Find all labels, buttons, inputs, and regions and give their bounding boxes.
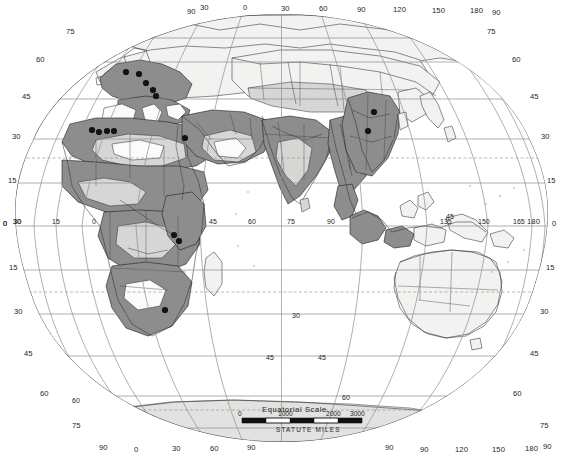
grid-label-right-11: 75 (540, 421, 549, 430)
map-canvas: 9030030609012015018090 90030609090901201… (0, 0, 563, 456)
longitude-labels-top: 9030030609012015018090 (187, 3, 501, 17)
grid-label-left-9: 45 (24, 349, 33, 358)
grid-label-top-6: 120 (393, 5, 406, 14)
scale-units-label: STATUTE MILES (276, 426, 341, 433)
grid-label-top-7: 150 (432, 6, 445, 15)
grid-label-left-0: 75 (66, 27, 75, 36)
grid-label-left-3: 30 (12, 132, 21, 141)
marker-eafrica-2 (176, 238, 182, 244)
marker-europe-5 (153, 93, 159, 99)
grid-label-equator-4: 45 (209, 218, 217, 225)
longitude-labels-bottom: 900306090909012015018090 (99, 442, 552, 454)
grid-label-equator-3: 0 (92, 218, 96, 225)
grid-label-top-2: 0 (243, 3, 247, 12)
grid-label-equator-9: 150 (478, 218, 490, 225)
grid-label-bottom-0: 90 (99, 443, 108, 452)
grid-label-top-0: 90 (187, 7, 196, 16)
grid-label-right-0: 75 (487, 27, 496, 36)
grid-label-right-5: 180 (527, 217, 540, 226)
marker-nafrica-1 (89, 127, 95, 133)
grid-label-bottom-9: 180 (525, 444, 538, 453)
grid-label-right-2: 45 (530, 92, 539, 101)
grid-label-right-4: 15 (547, 176, 556, 185)
grid-label-right-8: 30 (540, 307, 549, 316)
marker-echina-1 (371, 109, 377, 115)
grid-label-top-1: 30 (200, 3, 209, 12)
grid-label-left-11: 75 (72, 421, 81, 430)
scale-tick-2000: 2000 (326, 410, 341, 417)
map-body (0, 0, 563, 456)
grid-label-top-8: 180 (470, 6, 483, 15)
grid-label-bottom-7: 120 (455, 445, 468, 454)
grid-label-right-3: 30 (541, 132, 550, 141)
marker-nafrica-2 (96, 129, 102, 135)
marker-echina-2 (365, 128, 371, 134)
marker-levant (182, 135, 188, 141)
marker-eafrica-1 (171, 232, 177, 238)
grid-label-equator-1: 30 (13, 218, 21, 225)
grid-label-bottom-2: 30 (172, 444, 181, 453)
grid-label-left-1: 60 (36, 55, 45, 64)
scale-tick-3000: 3000 (350, 410, 365, 417)
grid-label-equator-7: 90 (327, 218, 335, 225)
marker-nafrica-4 (111, 128, 117, 134)
grid-label-interior-2: 30 (292, 312, 300, 319)
grid-label-equator-5: 60 (248, 218, 256, 225)
scale-tick-0: 0 (238, 410, 242, 417)
grid-label-interior-3: 45 (446, 213, 454, 220)
grid-label-top-4: 60 (319, 4, 328, 13)
grid-label-interior-5: 60 (342, 394, 350, 401)
grid-label-left-4: 15 (8, 176, 17, 185)
grid-label-right-6: 0 (552, 219, 556, 228)
grid-label-interior-1: 45 (318, 354, 326, 361)
grid-label-left-8: 30 (14, 307, 23, 316)
grid-label-bottom-3: 60 (210, 444, 219, 453)
marker-europe-2 (136, 71, 142, 77)
grid-label-top-5: 90 (357, 5, 366, 14)
grid-label-interior-0: 45 (266, 354, 274, 361)
grid-label-equator-6: 75 (287, 218, 295, 225)
marker-europe-1 (123, 69, 129, 75)
grid-label-left-2: 45 (22, 92, 31, 101)
grid-label-bottom-10: 90 (543, 442, 552, 451)
grid-label-bottom-6: 90 (420, 445, 429, 454)
world-map-figure: 9030030609012015018090 90030609090901201… (0, 0, 563, 456)
grid-label-right-7: 15 (546, 263, 555, 272)
grid-label-bottom-5: 90 (385, 443, 394, 452)
grid-label-top-3: 30 (281, 4, 290, 13)
grid-label-bottom-8: 150 (492, 445, 505, 454)
grid-label-equator-0: 0 (3, 220, 7, 227)
grid-label-right-1: 60 (512, 55, 521, 64)
grid-label-bottom-4: 90 (247, 443, 256, 452)
marker-safrica (162, 307, 168, 313)
grid-label-top-9: 90 (492, 8, 501, 17)
grid-label-left-7: 15 (9, 263, 18, 272)
marker-nafrica-3 (104, 128, 110, 134)
grid-label-equator-2: 15 (52, 218, 60, 225)
grid-label-right-9: 45 (530, 349, 539, 358)
grid-label-right-10: 60 (513, 389, 522, 398)
grid-label-interior-4: 60 (72, 397, 80, 404)
scale-tick-1000: 1000 (278, 410, 293, 417)
scale-title: Equatorial Scale (262, 405, 327, 414)
grid-label-equator-10: 165 (513, 218, 525, 225)
grid-label-left-10: 60 (40, 389, 49, 398)
marker-europe-3 (143, 80, 149, 86)
marker-europe-4 (150, 87, 156, 93)
grid-label-bottom-1: 0 (134, 445, 138, 454)
